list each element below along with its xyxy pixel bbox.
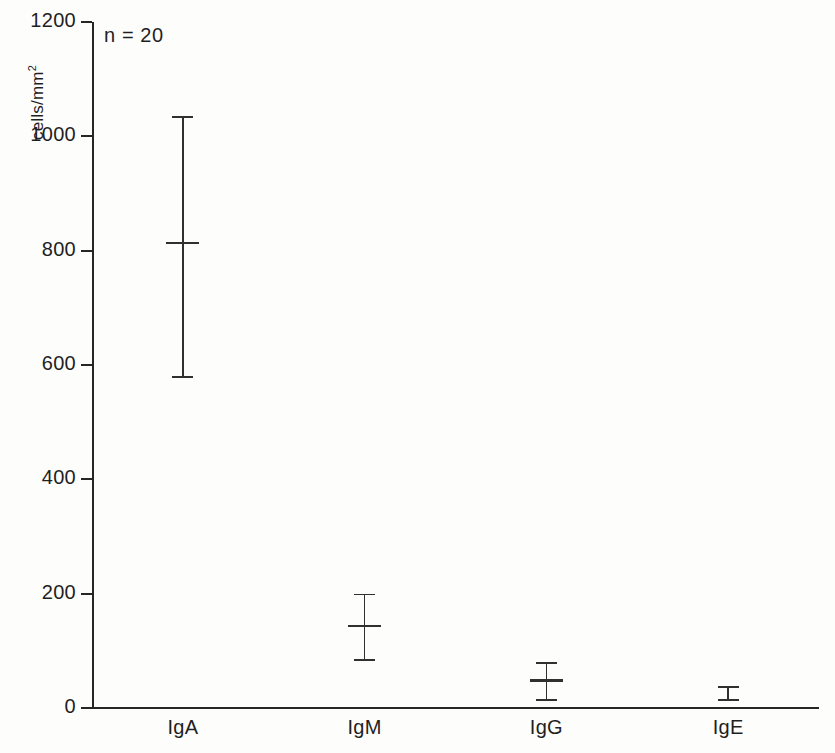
error-bar-upper-cap <box>172 116 193 118</box>
y-axis-tick-label-container: 400 <box>0 466 76 490</box>
error-bar-stem <box>182 116 184 376</box>
y-axis-tick <box>81 250 92 252</box>
error-bar-upper-cap <box>354 594 375 596</box>
y-axis-ticks-layer: 020040060080010001200 <box>0 0 835 753</box>
error-bar-upper-cap <box>718 686 739 688</box>
x-axis-label-igg: IgG <box>486 716 606 739</box>
y-axis-tick-label: 1000 <box>30 123 76 146</box>
chart-figure: cells/mm2 n = 20 020040060080010001200 I… <box>0 0 835 753</box>
y-axis-tick-label-container: 0 <box>0 695 76 719</box>
y-axis-tick-label: 0 <box>65 695 76 718</box>
y-axis-tick <box>81 135 92 137</box>
y-axis-tick-label-container: 600 <box>0 352 76 376</box>
error-bar-mean-marker <box>166 242 199 244</box>
x-axis-label-ige: IgE <box>668 716 788 739</box>
x-axis-label-igm: IgM <box>305 716 425 739</box>
y-axis-tick-label-container: 1200 <box>0 9 76 33</box>
y-axis-tick <box>81 364 92 366</box>
error-bar-lower-cap <box>536 699 557 701</box>
error-bar-mean-marker <box>348 625 381 627</box>
y-axis-tick-label: 1200 <box>30 9 76 32</box>
y-axis-tick-label-container: 1000 <box>0 123 76 147</box>
y-axis-tick-label: 800 <box>42 238 76 261</box>
y-axis-tick <box>81 707 92 709</box>
y-axis-tick-label-container: 800 <box>0 238 76 262</box>
error-bar-lower-cap <box>172 376 193 378</box>
y-axis-tick <box>81 21 92 23</box>
y-axis-tick <box>81 478 92 480</box>
y-axis-tick-label-container: 200 <box>0 581 76 605</box>
error-bar-lower-cap <box>354 659 375 661</box>
y-axis-tick-label: 600 <box>42 352 76 375</box>
error-bar-mean-marker <box>530 679 563 681</box>
error-bar-lower-cap <box>718 699 739 701</box>
error-bar-stem <box>727 686 729 699</box>
y-axis-tick <box>81 593 92 595</box>
y-axis-tick-label: 400 <box>42 466 76 489</box>
x-axis-label-iga: IgA <box>123 716 243 739</box>
error-bar-upper-cap <box>536 662 557 664</box>
y-axis-tick-label: 200 <box>42 581 76 604</box>
